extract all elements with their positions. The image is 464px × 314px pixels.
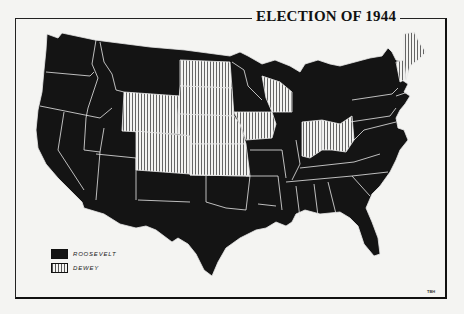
state-indiana	[302, 120, 322, 158]
state-north-dakota	[180, 60, 232, 88]
state-maine	[404, 32, 426, 80]
artist-credit: TBH	[427, 289, 435, 294]
legend-label-dewey: DEWEY	[73, 265, 99, 271]
map-title: ELECTION OF 1944	[252, 8, 400, 25]
legend-item-dewey: DEWEY	[51, 263, 99, 273]
state-colorado	[136, 131, 190, 174]
legend-item-roosevelt: ROOSEVELT	[51, 249, 116, 259]
legend-label-roosevelt: ROOSEVELT	[73, 251, 116, 257]
dewey-swatch	[51, 263, 68, 273]
state-wyoming	[122, 92, 180, 134]
state-south-dakota	[178, 86, 234, 116]
state-kansas	[190, 144, 250, 176]
roosevelt-swatch	[51, 249, 68, 259]
